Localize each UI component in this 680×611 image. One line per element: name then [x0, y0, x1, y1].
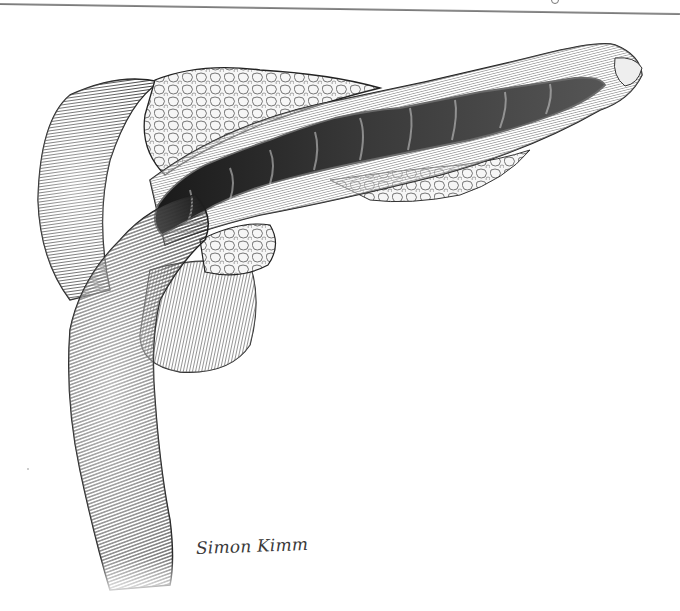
pancreas-illustration	[0, 0, 680, 611]
ink-speck	[27, 468, 29, 470]
artist-signature: Simon Kimm	[196, 534, 309, 558]
